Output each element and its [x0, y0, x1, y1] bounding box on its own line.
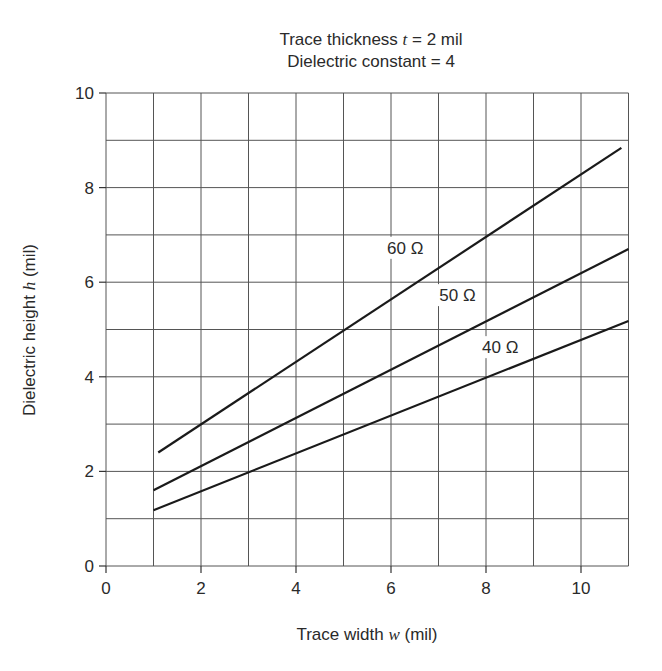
x-tick-label: 0	[101, 579, 110, 598]
y-tick-label: 0	[85, 557, 94, 576]
y-tick-label: 4	[85, 368, 94, 387]
y-tick-label: 8	[85, 179, 94, 198]
series-label: 50 Ω	[439, 286, 475, 305]
y-tick-label: 2	[85, 462, 94, 481]
x-axis-label: Trace width w (mil)	[296, 625, 437, 644]
x-tick-label: 10	[572, 579, 591, 598]
series-line	[158, 148, 621, 453]
grid-lines	[106, 93, 629, 566]
series-label: 60 Ω	[387, 239, 423, 258]
y-axis-label: Dielectric height h (mil)	[20, 244, 39, 416]
line-chart: 02468100246810 60 Ω50 Ω40 Ω Trace width …	[0, 0, 662, 671]
x-tick-label: 8	[481, 579, 490, 598]
x-tick-label: 2	[196, 579, 205, 598]
series-label: 40 Ω	[482, 338, 518, 357]
series-labels: 60 Ω50 Ω40 Ω	[379, 237, 526, 358]
x-tick-label: 4	[291, 579, 300, 598]
y-tick-label: 6	[85, 273, 94, 292]
y-tick-label: 10	[75, 84, 94, 103]
x-tick-label: 6	[386, 579, 395, 598]
